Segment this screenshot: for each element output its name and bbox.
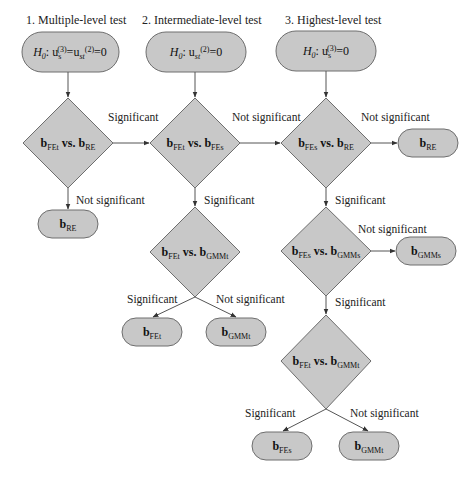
decision-node-6: bFEt vs. bGMMt (281, 315, 371, 409)
edge-label-d1-o1: Not significant (76, 194, 145, 207)
svg-text:H0: us(3)=0: H0: us(3)=0 (302, 44, 349, 60)
hypothesis-node-1: H0: us(3)=ust(2)=0 (22, 32, 119, 72)
edge-label-d4-o5: Not significant (216, 293, 285, 306)
outcome-node-b-gmms: bGMMs (396, 237, 456, 265)
edge-label-d5-o3: Not significant (358, 223, 427, 236)
edge-label-d2-d4: Significant (204, 194, 255, 207)
hypothesis-node-3: H0: us(3)=0 (276, 31, 376, 71)
column-title-1: 1. Multiple-level test (26, 13, 127, 27)
outcome-node-b-fes: bFEs (252, 432, 312, 460)
column-title-2: 2. Intermediate-level test (142, 13, 262, 27)
edge-label-d3-d5: Significant (335, 194, 386, 207)
outcome-node-b-fet: bFEt (122, 318, 182, 346)
edge-label-d1-d2: Significant (108, 111, 159, 124)
edge-label-d2-d3: Not significant (232, 111, 301, 124)
flowchart: 1. Multiple-level test 2. Intermediate-l… (0, 0, 475, 481)
decision-node-4: bFEt vs. bGMMt (150, 207, 240, 297)
decision-node-1: bFEt vs. bRE (23, 98, 113, 188)
outcome-node-b-re-1: bRE (38, 210, 98, 238)
edge-label-d6-o6: Significant (245, 407, 296, 420)
outcome-node-b-re-2: bRE (398, 129, 458, 157)
edge-label-d6-o7: Not significant (350, 407, 419, 420)
outcome-node-b-gmmt-1: bGMMt (206, 318, 266, 346)
decision-node-2: bFEt vs. bFEs (150, 98, 240, 188)
edge-label-d5-d6: Significant (335, 296, 386, 309)
edge-label-d4-o4: Significant (127, 293, 178, 306)
column-title-3: 3. Highest-level test (285, 13, 382, 27)
edge-label-d3-o2: Not significant (361, 111, 430, 124)
outcome-node-b-gmmt-2: bGMMt (339, 432, 399, 460)
hypothesis-node-2: H0: ust(2)=0 (146, 32, 246, 72)
decision-node-5: bFEs vs. bGMMs (281, 207, 371, 296)
